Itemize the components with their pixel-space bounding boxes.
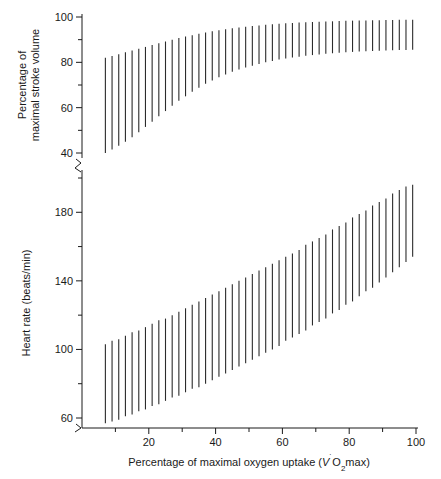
- stroke-volume-axis-label-line2: maximal stroke volume: [29, 29, 41, 141]
- x-tick-label: 80: [343, 436, 355, 448]
- axis-break-marker: [75, 424, 81, 432]
- axis-break-marker: [75, 159, 81, 172]
- y-tick-label: 60: [61, 102, 73, 114]
- y-tick-label: 140: [55, 275, 73, 287]
- y-tick-label: 60: [61, 412, 73, 424]
- y-tick-label: 180: [55, 206, 73, 218]
- stroke-volume-axis-label-line1: Percentage of: [16, 50, 28, 119]
- x-tick-label: 100: [407, 436, 425, 448]
- x-axis: 20406080100: [82, 428, 425, 448]
- x-tick-label: 40: [209, 436, 221, 448]
- heart-rate-range-bars: [105, 185, 412, 423]
- y-tick-label: 100: [55, 343, 73, 355]
- y-tick-label: 100: [55, 11, 73, 23]
- figure-container: 406080100 60100140180 20406080100 Percen…: [0, 0, 441, 479]
- x-tick-label: 20: [143, 436, 155, 448]
- stroke-volume-panel: 406080100: [55, 11, 413, 172]
- y-tick-label: 80: [61, 56, 73, 68]
- heart-rate-axis-label: Heart rate (beats/min): [20, 250, 32, 357]
- y-tick-label: 40: [61, 147, 73, 159]
- x-tick-label: 60: [276, 436, 288, 448]
- heart-rate-panel: 60100140180: [55, 170, 413, 432]
- exercise-physiology-chart: 406080100 60100140180 20406080100 Percen…: [0, 0, 441, 479]
- stroke-volume-range-bars: [105, 20, 412, 153]
- x-axis-label: Percentage of maximal oxygen uptake (V˙O…: [128, 453, 370, 473]
